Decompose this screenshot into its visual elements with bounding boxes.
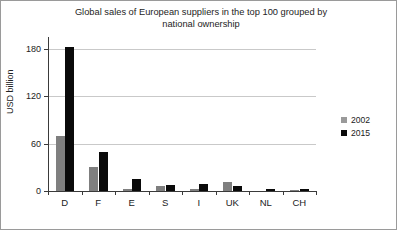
x-tick-label-nl: NL <box>260 197 272 208</box>
x-tick-label-i: I <box>197 197 200 208</box>
legend-swatch-2015 <box>341 130 347 136</box>
x-tick-mark <box>115 191 116 195</box>
chart-figure: Global sales of European suppliers in th… <box>0 0 397 230</box>
x-tick-label-f: F <box>95 197 101 208</box>
plot-area: 060120180 <box>48 37 316 191</box>
bar-uk-2002 <box>223 182 232 191</box>
x-tick-label-uk: UK <box>226 197 239 208</box>
x-tick-label-ch: CH <box>292 197 306 208</box>
x-tick-mark <box>316 191 317 195</box>
bar-f-2015 <box>99 152 108 191</box>
x-tick-mark <box>149 191 150 195</box>
bar-i-2015 <box>199 184 208 191</box>
x-tick-mark <box>249 191 250 195</box>
x-tick-label-e: E <box>129 197 135 208</box>
y-axis-line <box>48 37 49 192</box>
y-tick-label: 120 <box>26 91 41 101</box>
y-tick-label: 60 <box>31 139 41 149</box>
bar-group-e <box>123 37 142 191</box>
chart-title: Global sales of European suppliers in th… <box>31 6 371 30</box>
bar-group-i <box>190 37 209 191</box>
bar-d-2015 <box>65 47 74 191</box>
y-tick-label: 180 <box>26 44 41 54</box>
bar-group-f <box>89 37 108 191</box>
x-tick-mark <box>82 191 83 195</box>
bar-group-d <box>56 37 75 191</box>
x-tick-label-s: S <box>162 197 168 208</box>
y-tick-label: 0 <box>36 186 41 196</box>
bar-group-s <box>156 37 175 191</box>
bar-f-2002 <box>89 167 98 191</box>
x-tick-mark <box>182 191 183 195</box>
x-tick-mark <box>283 191 284 195</box>
legend-label: 2015 <box>351 128 370 138</box>
bar-d-2002 <box>56 136 65 191</box>
bar-group-nl <box>257 37 276 191</box>
legend-item-2002: 2002 <box>341 113 370 126</box>
bar-group-uk <box>223 37 242 191</box>
legend-item-2015: 2015 <box>341 126 370 139</box>
x-tick-label-d: D <box>61 197 68 208</box>
legend-swatch-2002 <box>341 117 347 123</box>
x-tick-mark <box>48 191 49 195</box>
bar-group-ch <box>290 37 309 191</box>
chart-legend: 20022015 <box>341 113 370 139</box>
legend-label: 2002 <box>351 115 370 125</box>
x-tick-mark <box>216 191 217 195</box>
bar-e-2015 <box>132 179 141 191</box>
y-axis-label: USD billion <box>5 69 15 114</box>
bar-series-container <box>48 37 316 191</box>
